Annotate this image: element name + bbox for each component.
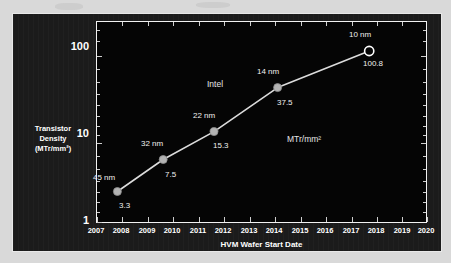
y-tick-label-100: 100 (51, 41, 89, 52)
x-tick-label-2020: 2020 (411, 227, 441, 235)
series-line (117, 51, 369, 192)
data-point-22nm[interactable] (210, 128, 218, 136)
x-axis-title: HVM Wafer Start Date (96, 240, 427, 249)
series-intel (97, 22, 428, 224)
plot-area: 45 nm 32 nm 22 nm 14 nm 10 nm 3.3 7.5 15… (96, 21, 427, 223)
data-point-32nm[interactable] (159, 156, 167, 164)
chart-panel: Transistor Density (MTr/mm²) 100 10 1 (12, 13, 442, 252)
point-value-14nm: 37.5 (277, 99, 293, 107)
data-point-45nm[interactable] (113, 188, 121, 196)
point-label-22nm: 22 nm (193, 112, 215, 120)
annotation-units: MTr/mm² (287, 135, 321, 144)
y-tick-label-10: 10 (51, 128, 89, 139)
point-label-10nm: 10 nm (349, 31, 371, 39)
point-value-32nm: 7.5 (165, 171, 176, 179)
y-axis-title-line-3: (MTr/mm²) (15, 144, 91, 154)
background-smudge-left (55, 3, 83, 10)
point-label-32nm: 32 nm (141, 140, 163, 148)
point-value-10nm: 100.8 (363, 60, 383, 68)
y-tick-label-1: 1 (51, 215, 89, 226)
point-value-45nm: 3.3 (119, 202, 130, 210)
data-point-14nm[interactable] (274, 84, 282, 92)
annotation-intel: Intel (207, 80, 223, 89)
point-label-14nm: 14 nm (257, 68, 279, 76)
point-label-45nm: 45 nm (93, 174, 115, 182)
background-smudge-center (196, 2, 230, 8)
point-value-22nm: 15.3 (213, 142, 229, 150)
data-point-10nm[interactable] (365, 46, 374, 55)
